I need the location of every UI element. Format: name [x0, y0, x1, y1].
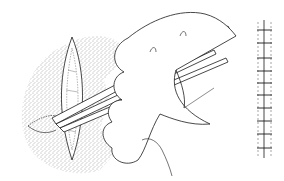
- surgical-illustration: [0, 0, 284, 181]
- hand: [103, 12, 236, 176]
- closed-suture-line: [257, 20, 272, 158]
- suture-stitches: [257, 30, 272, 148]
